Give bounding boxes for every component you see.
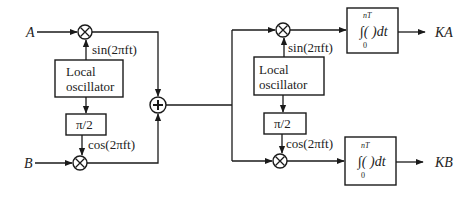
svg-text:π/2: π/2 [274, 116, 291, 131]
adder [150, 97, 166, 113]
integrator-top: nT ∫( )dt 0 [347, 8, 398, 53]
svg-text:oscillator: oscillator [66, 79, 115, 94]
cos-label-right: cos(2πft) [286, 136, 333, 151]
demodulator: sin(2πft) Local oscillator π/2 cos(2πft)… [232, 8, 453, 185]
sin-label: sin(2πft) [92, 42, 137, 57]
svg-text:nT: nT [361, 141, 370, 150]
svg-text:π/2: π/2 [76, 117, 93, 132]
local-oscillator-left: Local oscillator [55, 60, 123, 97]
qam-block-diagram: A sin(2πft) Local oscillator π/2 cos(2πf… [0, 0, 475, 198]
cos-label: cos(2πft) [88, 137, 135, 152]
svg-text:Local: Local [66, 64, 96, 79]
svg-text:∫( )dt: ∫( )dt [359, 24, 389, 40]
local-oscillator-right: Local oscillator [254, 57, 324, 95]
input-b-label: B [24, 156, 33, 171]
svg-text:Local: Local [259, 62, 289, 77]
phase-shift-left: π/2 [66, 114, 106, 135]
modulator: A sin(2πft) Local oscillator π/2 cos(2πf… [24, 25, 166, 171]
integrator-bottom: nT ∫( )dt 0 [345, 137, 396, 185]
output-kb-label: KB [434, 155, 453, 170]
multiplier-top-right [276, 23, 290, 37]
phase-shift-right: π/2 [264, 113, 306, 134]
svg-text:∫( )dt: ∫( )dt [357, 154, 387, 170]
svg-text:oscillator: oscillator [259, 77, 308, 92]
sin-label-right: sin(2πft) [288, 40, 333, 55]
multiplier-bottom-right [273, 154, 287, 168]
input-a-label: A [25, 25, 35, 40]
output-ka-label: KA [434, 25, 453, 40]
svg-text:0: 0 [363, 41, 367, 50]
svg-text:nT: nT [363, 11, 372, 20]
multiplier-bottom-left [73, 156, 87, 170]
svg-text:0: 0 [361, 171, 365, 180]
multiplier-top-left [78, 25, 92, 39]
